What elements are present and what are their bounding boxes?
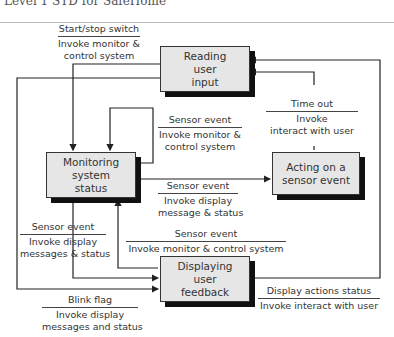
label-monitor-to-display: Sensor event Invoke display messages & s… bbox=[20, 221, 106, 260]
label-display-actions: Display actions status Invoke interact w… bbox=[258, 285, 380, 312]
event-text: Sensor event bbox=[126, 228, 286, 242]
state-displaying-user-feedback: Displaying user feedback bbox=[160, 256, 250, 302]
state-label: user bbox=[161, 273, 249, 286]
action-text: messages and status bbox=[42, 321, 138, 333]
state-reading-user-input: Reading user input bbox=[160, 46, 250, 92]
state-label: Reading bbox=[161, 50, 249, 63]
label-display-to-monitor: Sensor event Invoke monitor & control sy… bbox=[126, 228, 286, 255]
action-text: control system bbox=[158, 141, 242, 153]
state-label: Displaying bbox=[161, 260, 249, 273]
state-label: system bbox=[47, 169, 135, 182]
state-acting-on-sensor-event: Acting on a sensor event bbox=[272, 152, 360, 195]
event-text: Blink flag bbox=[42, 294, 138, 308]
label-start-stop: Start/stop switch Invoke monitor & contr… bbox=[58, 23, 140, 62]
action-text: Invoke interact with user bbox=[258, 300, 380, 312]
action-text: Invoke display bbox=[158, 195, 238, 207]
action-text: control system bbox=[58, 50, 140, 62]
state-label: status bbox=[47, 182, 135, 195]
action-text: Invoke monitor & bbox=[58, 38, 140, 50]
label-to-acting: Sensor event Invoke display message & st… bbox=[158, 180, 238, 219]
event-text: Sensor event bbox=[158, 114, 242, 128]
event-text: Sensor event bbox=[20, 221, 106, 235]
action-text: messages & status bbox=[20, 248, 106, 260]
state-label: sensor event bbox=[273, 174, 359, 187]
action-text: message & status bbox=[158, 207, 238, 219]
state-label: feedback bbox=[161, 286, 249, 299]
action-text: Invoke monitor & bbox=[158, 129, 242, 141]
state-label: Monitoring bbox=[47, 156, 135, 169]
action-text: interact with user bbox=[266, 125, 358, 137]
label-time-out: Time out Invoke interact with user bbox=[266, 98, 358, 137]
event-text: Start/stop switch bbox=[58, 23, 140, 37]
event-text: Display actions status bbox=[258, 285, 380, 299]
action-text: Invoke display bbox=[20, 236, 106, 248]
action-text: Invoke display bbox=[42, 309, 138, 321]
label-self-loop: Sensor event Invoke monitor & control sy… bbox=[158, 114, 242, 153]
action-text: Invoke bbox=[266, 113, 358, 125]
state-label: input bbox=[161, 76, 249, 89]
label-blink-flag: Blink flag Invoke display messages and s… bbox=[42, 294, 138, 333]
event-text: Time out bbox=[266, 98, 358, 112]
event-text: Sensor event bbox=[158, 180, 238, 194]
action-text: Invoke monitor & control system bbox=[126, 243, 286, 255]
state-monitoring-system-status: Monitoring system status bbox=[46, 152, 136, 198]
state-label: Acting on a bbox=[273, 161, 359, 174]
state-label: user bbox=[161, 63, 249, 76]
